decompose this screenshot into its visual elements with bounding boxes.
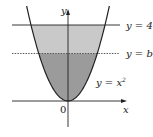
line-y-equals-4-label: y = 4 [125,20,153,31]
curve-label-base: y = x [95,77,122,88]
x-axis-arrow-icon [121,99,127,103]
parabola-diagram: y x 0 y = 4 y = b y = x2 [0,0,153,137]
x-axis-label: x [123,104,129,115]
y-axis-label: y [60,5,67,16]
origin-label: 0 [60,104,66,115]
line-y-equals-b-label: y = b [125,48,153,59]
curve-label: y = x2 [95,76,126,88]
curve-label-exponent: 2 [121,76,126,83]
